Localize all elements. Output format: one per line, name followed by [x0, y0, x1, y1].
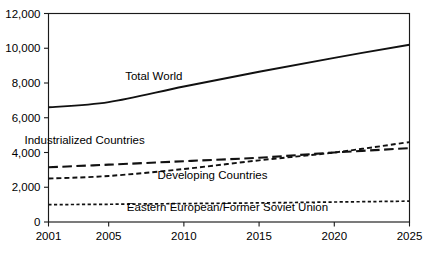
- energy-consumption-line-chart: 02,0004,0006,0008,00010,00012,000 200120…: [0, 0, 424, 253]
- x-tick-label: 2005: [96, 230, 122, 242]
- x-tick-label: 2001: [36, 230, 62, 242]
- x-tick-label: 2015: [246, 230, 272, 242]
- x-tick-label: 2025: [397, 230, 423, 242]
- x-tick-label: 2010: [171, 230, 197, 242]
- series-label-industrialized-countries: Industrialized Countries: [25, 134, 145, 146]
- y-tick-label: 12,000: [5, 8, 40, 20]
- series-label-eastern-european-former-soviet-union: Eastern European/Former Soviet Union: [127, 201, 328, 213]
- y-tick-label: 6,000: [12, 112, 41, 124]
- chart-background: [0, 0, 424, 253]
- y-tick-label: 2,000: [12, 181, 41, 193]
- series-label-total-world: Total World: [125, 70, 182, 82]
- y-tick-label: 4,000: [12, 147, 41, 159]
- chart-canvas: 02,0004,0006,0008,00010,00012,000 200120…: [0, 0, 424, 253]
- y-tick-label: 8,000: [12, 77, 41, 89]
- y-tick-label: 10,000: [5, 42, 40, 54]
- x-tick-label: 2020: [321, 230, 347, 242]
- series-label-developing-countries: Developing Countries: [157, 169, 267, 181]
- y-tick-label: 0: [34, 216, 40, 228]
